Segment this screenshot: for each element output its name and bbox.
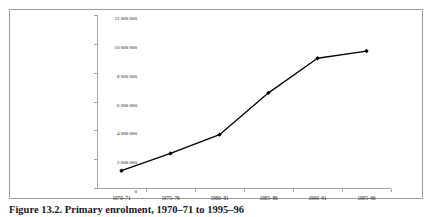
data-point-marker — [364, 49, 368, 53]
x-axis-tick-label: 1980–81 — [210, 195, 228, 201]
x-axis-tick-label: 1995–96 — [357, 195, 375, 201]
data-point-marker — [119, 169, 123, 173]
x-axis-tick-label: 1985–86 — [259, 195, 277, 201]
chart-frame: 02 000 0004 000 0006 000 0008 000 00010 … — [9, 9, 423, 199]
x-axis-tick-label: 1970–71 — [112, 195, 130, 201]
figure-page: 02 000 0004 000 0006 000 0008 000 00010 … — [0, 0, 433, 217]
x-axis-tick-label: 1990–91 — [308, 195, 326, 201]
data-point-marker — [168, 151, 172, 155]
x-tick-mark — [391, 189, 392, 192]
figure-caption: Figure 13.2. Primary enrolment, 1970–71 … — [9, 204, 429, 216]
plot-area: 02 000 0004 000 0006 000 0008 000 00010 … — [97, 15, 391, 194]
x-axis-tick-label: 1975–76 — [161, 195, 179, 201]
series-line-enrolment — [97, 15, 391, 194]
